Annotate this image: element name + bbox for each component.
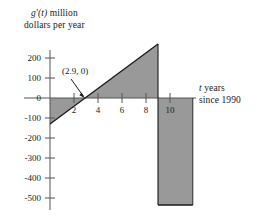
x-axis-variable: t: [199, 83, 202, 93]
chart-plot-area: 200 100 0 -100 -200 -300 -400 -500 2 4 6…: [0, 0, 271, 218]
y-axis-variable: g′(t): [31, 8, 47, 18]
y-tick-label-neg400: -400: [25, 173, 42, 183]
annotation-arrow-head: [79, 92, 84, 98]
y-tick-label-0: 0: [37, 93, 42, 103]
x-tick-label-6: 6: [120, 105, 125, 115]
annotation-label-x-intercept: (2.9, 0): [62, 66, 88, 76]
y-tick-label-neg200: -200: [25, 133, 42, 143]
y-axis-title-unit-part1: million: [50, 8, 78, 18]
y-tick-label-neg500: -500: [25, 193, 42, 203]
y-tick-label-neg100: -100: [25, 113, 42, 123]
y-tick-label-200: 200: [28, 53, 42, 63]
shaded-negative-rectangle-right: [158, 98, 193, 205]
x-axis-title: t years since 1990: [199, 83, 241, 106]
chart-figure: 200 100 0 -100 -200 -300 -400 -500 2 4 6…: [0, 0, 271, 218]
y-axis-title: g′(t) million dollars per year: [24, 8, 85, 31]
x-tick-label-10: 10: [166, 105, 176, 115]
x-axis-title-line2: since 1990: [199, 95, 241, 107]
x-axis-title-unit: years: [204, 83, 225, 93]
y-tick-label-neg300: -300: [25, 153, 42, 163]
y-axis-title-line2: dollars per year: [24, 20, 85, 32]
x-tick-label-4: 4: [96, 105, 101, 115]
x-tick-label-8: 8: [144, 105, 149, 115]
y-axis-title-line1: g′(t) million: [24, 8, 85, 20]
x-axis-title-line1: t years: [199, 83, 241, 95]
y-tick-label-100: 100: [28, 73, 42, 83]
